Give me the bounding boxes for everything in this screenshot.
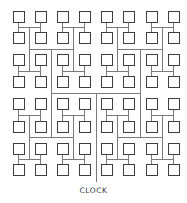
h-tree-diagram (0, 0, 187, 203)
clock-node (36, 33, 47, 44)
clock-node (124, 12, 135, 23)
clock-node (147, 33, 158, 44)
clock-node (58, 55, 69, 66)
clock-node (80, 122, 91, 133)
clock-node (36, 12, 47, 23)
clock-node (124, 55, 135, 66)
clock-node (102, 165, 113, 176)
clock-node (169, 33, 180, 44)
clock-node (14, 12, 25, 23)
clock-node (169, 77, 180, 88)
clock-node (124, 33, 135, 44)
clock-node (102, 77, 113, 88)
clock-node (36, 122, 47, 133)
clock-node (102, 144, 113, 155)
clock-node (102, 33, 113, 44)
clock-node (14, 33, 25, 44)
clock-node (102, 12, 113, 23)
clock-node (102, 55, 113, 66)
clock-node (14, 77, 25, 88)
clock-node (169, 12, 180, 23)
clock-node (58, 33, 69, 44)
clock-node (14, 122, 25, 133)
clock-node (80, 99, 91, 110)
clock-node (14, 165, 25, 176)
clock-node (58, 165, 69, 176)
clock-node (80, 144, 91, 155)
clock-node (147, 77, 158, 88)
clock-node (80, 165, 91, 176)
clock-node (80, 33, 91, 44)
clock-node (124, 77, 135, 88)
clock-node (58, 122, 69, 133)
clock-node (147, 99, 158, 110)
clock-node (80, 55, 91, 66)
clock-node (169, 122, 180, 133)
clock-node (58, 99, 69, 110)
clock-node (58, 144, 69, 155)
clock-node (147, 12, 158, 23)
clock-node (124, 99, 135, 110)
clock-node (58, 77, 69, 88)
clock-node (124, 122, 135, 133)
clock-node (14, 144, 25, 155)
clock-node (124, 144, 135, 155)
clock-node (36, 165, 47, 176)
clock-node (169, 99, 180, 110)
clock-node (102, 99, 113, 110)
clock-node (80, 77, 91, 88)
clock-node (14, 99, 25, 110)
clock-node (102, 122, 113, 133)
clock-node (147, 55, 158, 66)
clock-node (36, 144, 47, 155)
clock-node (58, 12, 69, 23)
clock-label: CLOCK (0, 186, 187, 195)
clock-node (169, 165, 180, 176)
clock-node (36, 55, 47, 66)
clock-node (169, 55, 180, 66)
clock-node (124, 165, 135, 176)
clock-node (147, 165, 158, 176)
clock-node (36, 77, 47, 88)
clock-node (147, 122, 158, 133)
clock-node (169, 144, 180, 155)
clock-node (36, 99, 47, 110)
clock-node (14, 55, 25, 66)
clock-node (147, 144, 158, 155)
clock-node (80, 12, 91, 23)
